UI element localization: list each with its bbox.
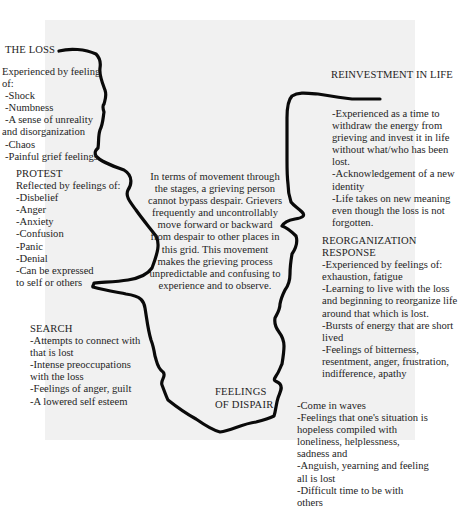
detail-line: lived xyxy=(322,332,457,344)
detail-line: all is lost xyxy=(297,473,429,485)
detail-line: -Bursts of energy that are short xyxy=(322,320,457,332)
detail-line: -Feelings that one's situation is xyxy=(297,412,429,424)
note-line: In terms of movement through xyxy=(148,171,282,183)
note-line: cannot bypass despair. Grievers xyxy=(148,195,282,207)
stage-title: RESPONSE xyxy=(322,247,457,259)
stage-dispair-details: -Come in waves -Feelings that one's situ… xyxy=(297,400,429,509)
stage-title: REINVESTMENT IN LIFE xyxy=(331,69,453,81)
detail-line: -A lowered self esteem xyxy=(30,396,140,408)
detail-line: Experienced by feeling xyxy=(2,66,100,78)
detail-line: around that which is lost. xyxy=(322,308,457,320)
note-line: move forward or backward xyxy=(148,219,282,231)
stage-title: OF DISPAIR xyxy=(215,399,273,412)
stage-search: SEARCH -Attempts to connect with that is… xyxy=(30,323,140,408)
detail-line: even though the loss is not xyxy=(332,205,455,217)
note-line: unpredictable and confusing to xyxy=(148,268,282,280)
detail-line: -Come in waves xyxy=(297,400,429,412)
stage-title: THE LOSS xyxy=(5,44,55,56)
stage-title: REORGANIZATION xyxy=(322,235,457,247)
detail-line: and disorganization xyxy=(2,126,100,138)
stage-title: PROTEST xyxy=(16,168,120,180)
detail-line: hopeless compiled with xyxy=(297,424,429,436)
detail-line: -Anxiety xyxy=(16,216,120,228)
detail-line: exhaustion, fatigue xyxy=(322,271,457,283)
detail-line: -A sense of unreality xyxy=(2,114,100,126)
detail-line: -Panic xyxy=(16,241,120,253)
stage-protest: PROTEST Reflected by feelings of: -Disbe… xyxy=(16,168,120,289)
stage-title: SEARCH xyxy=(30,323,140,335)
detail-line: that is lost xyxy=(30,347,140,359)
detail-line: -Learning to live with the loss xyxy=(322,283,457,295)
detail-line: sadness and xyxy=(297,448,429,460)
detail-line: -Anger xyxy=(16,204,120,216)
detail-line: Reflected by feelings of: xyxy=(16,180,120,192)
detail-line: -Disbelief xyxy=(16,192,120,204)
detail-line: others xyxy=(297,497,429,509)
detail-line: to self or others xyxy=(16,277,120,289)
detail-line: -Difficult time to be with xyxy=(297,485,429,497)
detail-line: -Attempts to connect with xyxy=(30,335,140,347)
detail-line: -Intense preoccupations xyxy=(30,359,140,371)
detail-line: -Experienced as a time to xyxy=(332,108,455,120)
detail-line: -Acknowledgement of a new xyxy=(332,168,455,180)
detail-line: resentment, anger, frustration, xyxy=(322,356,457,368)
detail-line: -Chaos xyxy=(2,139,100,151)
detail-line: with the loss xyxy=(30,371,140,383)
note-line: experience and to observe. xyxy=(148,280,282,292)
detail-line: -Can be expressed xyxy=(16,265,120,277)
detail-line: and beginning to reorganize life xyxy=(322,295,457,307)
note-line: this grid. This movement xyxy=(148,244,282,256)
note-line: makes the grieving process xyxy=(148,256,282,268)
detail-line: -Numbness xyxy=(2,102,100,114)
note-line: from despair to other places in xyxy=(148,231,282,243)
detail-line: grieving and invest it in life xyxy=(332,132,455,144)
detail-line: of: xyxy=(2,78,100,90)
detail-line: -Feelings of bitterness, xyxy=(322,344,457,356)
detail-line: -Life takes on new meaning xyxy=(332,193,455,205)
detail-line: -Confusion xyxy=(16,228,120,240)
note-line: frequently and uncontrollably xyxy=(148,207,282,219)
stage-reorganization: REORGANIZATION RESPONSE -Experienced by … xyxy=(322,235,457,380)
stage-title: FEELINGS xyxy=(215,386,273,399)
detail-line: indifference, apathy xyxy=(322,368,457,380)
detail-line: lost. xyxy=(332,156,455,168)
detail-line: -Anguish, yearning and feeling xyxy=(297,460,429,472)
detail-line: -Experienced by feelings of: xyxy=(322,259,457,271)
movement-note: In terms of movement through the stages,… xyxy=(148,171,282,292)
stage-dispair-title: FEELINGS OF DISPAIR xyxy=(215,386,273,411)
detail-line: -Painful grief feelings xyxy=(2,151,100,163)
detail-line: -Feelings of anger, guilt xyxy=(30,383,140,395)
detail-line: without what/who has been xyxy=(332,144,455,156)
stage-the-loss: THE LOSS xyxy=(5,44,55,56)
detail-line: -Shock xyxy=(2,90,100,102)
stage-the-loss-details: Experienced by feeling of: -Shock -Numbn… xyxy=(2,66,100,163)
detail-line: forgotten. xyxy=(332,217,455,229)
detail-line: withdraw the energy from xyxy=(332,120,455,132)
detail-line: -Denial xyxy=(16,253,120,265)
stage-reinvestment-details: -Experienced as a time to withdraw the e… xyxy=(332,108,455,229)
note-line: the stages, a grieving person xyxy=(148,183,282,195)
detail-line: identity xyxy=(332,181,455,193)
detail-line: loneliness, helplessness, xyxy=(297,436,429,448)
stage-reinvestment: REINVESTMENT IN LIFE xyxy=(331,69,453,81)
